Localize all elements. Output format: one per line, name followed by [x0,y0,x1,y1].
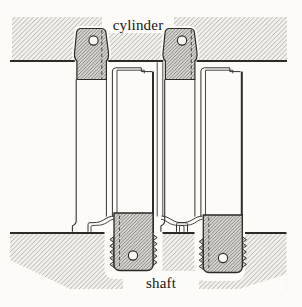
right-lug-hole [177,36,186,45]
left-stud [110,213,157,271]
left-stud-hole [128,251,137,260]
shaft-label: shaft [146,275,177,291]
left-lug-hole [89,36,98,45]
right-stud [199,215,246,273]
technical-diagram: cylinder shaft [0,0,302,307]
cylinder-label: cylinder [113,17,164,33]
right-stud-hole [218,253,227,262]
